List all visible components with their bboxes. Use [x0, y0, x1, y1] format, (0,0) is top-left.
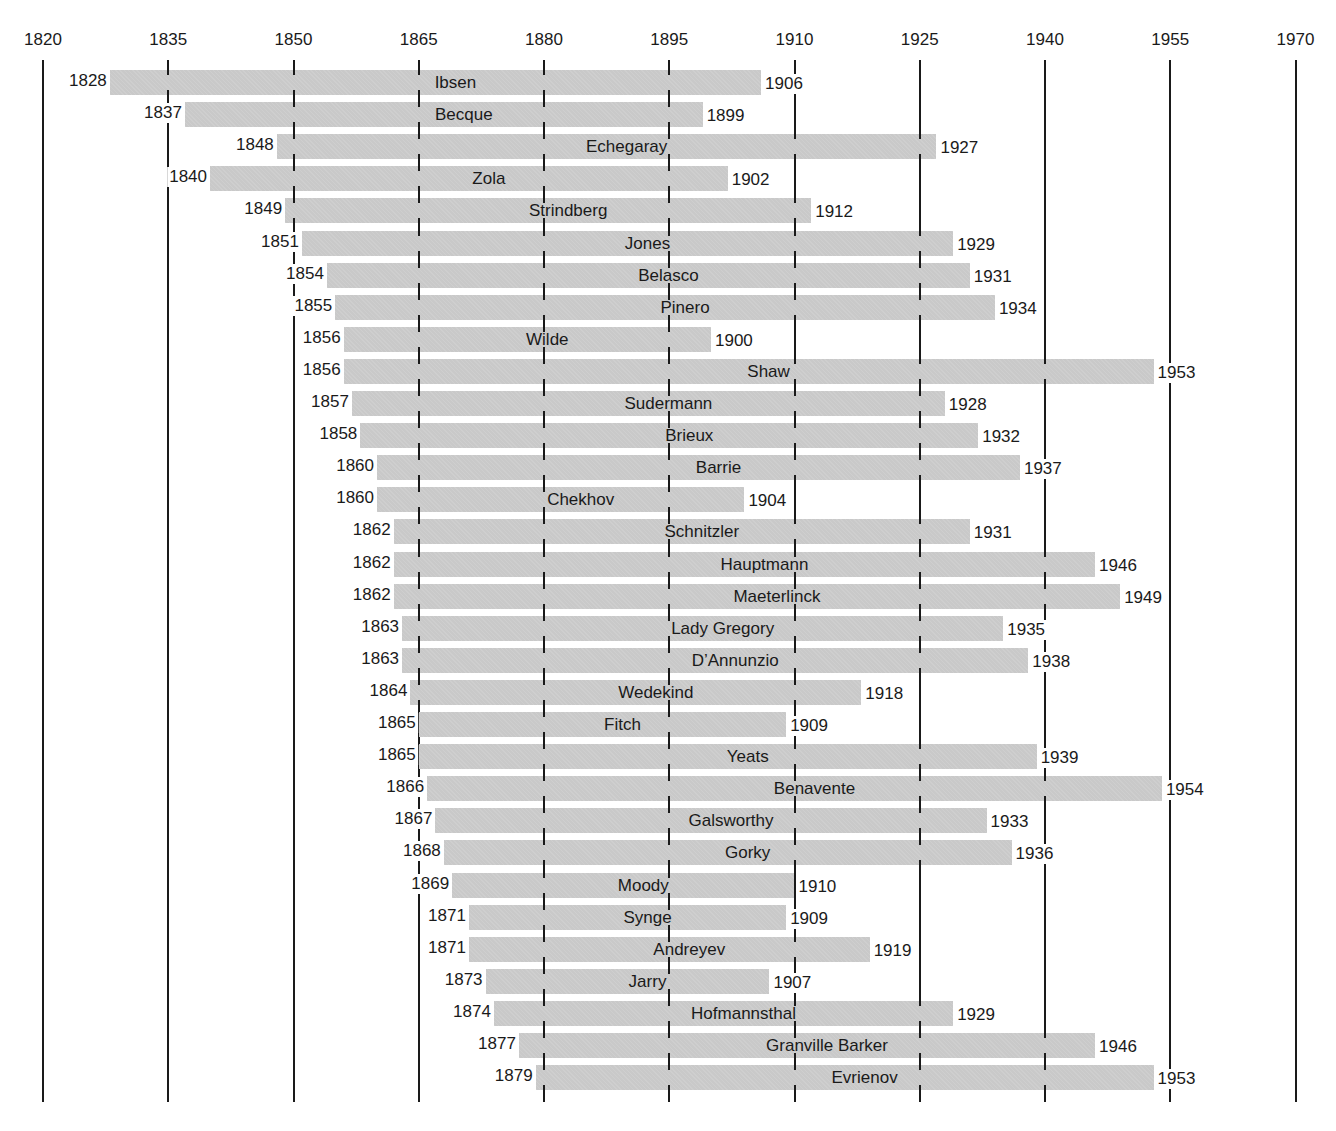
- bar-name: Jarry: [629, 972, 667, 992]
- grid-tick: [668, 712, 670, 717]
- bar-name: Echegaray: [586, 137, 667, 157]
- grid-tick: [418, 186, 420, 191]
- start-year: 1856: [301, 328, 343, 348]
- end-year: 1946: [1097, 1037, 1139, 1057]
- grid-tick: [543, 295, 545, 300]
- grid-tick: [794, 636, 796, 641]
- axis-tick-label: 1835: [149, 30, 187, 50]
- start-year: 1866: [384, 777, 426, 797]
- grid-tick: [543, 1053, 545, 1058]
- grid-tick: [418, 134, 420, 139]
- bar-name: Galsworthy: [688, 811, 773, 831]
- grid-tick: [543, 636, 545, 641]
- start-year: 1865: [376, 745, 418, 765]
- grid-tick: [543, 134, 545, 139]
- start-year: 1874: [451, 1002, 493, 1022]
- start-year: 1868: [401, 841, 443, 861]
- grid-tick: [1044, 1065, 1046, 1070]
- start-year: 1854: [284, 264, 326, 284]
- bar-row: Galsworthy18671933: [0, 808, 1336, 834]
- grid-tick: [668, 828, 670, 833]
- grid-tick: [543, 668, 545, 673]
- grid-tick: [418, 327, 420, 332]
- bar-name: Pinero: [660, 298, 709, 318]
- grid-tick: [418, 166, 420, 171]
- bar-row: D’Annunzio18631938: [0, 648, 1336, 674]
- grid-tick: [418, 487, 420, 492]
- bar-row: Jones18511929: [0, 231, 1336, 257]
- grid-tick: [794, 680, 796, 685]
- grid-tick: [919, 231, 921, 236]
- grid-tick: [543, 893, 545, 898]
- grid-tick: [543, 860, 545, 865]
- start-year: 1863: [359, 649, 401, 669]
- end-year: 1909: [788, 716, 830, 736]
- bar-name: Belasco: [638, 266, 698, 286]
- grid-tick: [293, 166, 295, 171]
- grid-tick: [543, 391, 545, 396]
- end-year: 1953: [1156, 1069, 1198, 1089]
- grid-tick: [418, 552, 420, 557]
- start-year: 1840: [167, 167, 209, 187]
- start-year: 1858: [317, 424, 359, 444]
- grid-tick: [668, 969, 670, 974]
- end-year: 1931: [972, 267, 1014, 287]
- end-year: 1899: [705, 106, 747, 126]
- start-year: 1851: [259, 232, 301, 252]
- grid-tick: [919, 860, 921, 865]
- bar-name: Schnitzler: [664, 522, 739, 542]
- grid-tick: [543, 263, 545, 268]
- grid-tick: [794, 134, 796, 139]
- grid-tick: [919, 359, 921, 364]
- grid-tick: [543, 969, 545, 974]
- grid-tick: [668, 347, 670, 352]
- grid-tick: [543, 604, 545, 609]
- grid-tick: [668, 744, 670, 749]
- grid-tick: [794, 263, 796, 268]
- grid-tick: [668, 796, 670, 801]
- bar-name: Hauptmann: [720, 555, 808, 575]
- grid-tick: [794, 957, 796, 962]
- bar-name: Hofmannsthal: [691, 1004, 796, 1024]
- start-year: 1855: [292, 296, 334, 316]
- bar-row: Evrienov18791953: [0, 1065, 1336, 1091]
- grid-tick: [543, 487, 545, 492]
- lifespan-bar: [210, 166, 728, 191]
- bar-row: Gorky18681936: [0, 840, 1336, 866]
- bar-name: Gorky: [725, 843, 770, 863]
- grid-tick: [919, 584, 921, 589]
- grid-tick: [293, 134, 295, 139]
- bar-row: Chekhov18601904: [0, 487, 1336, 513]
- bar-name: Wilde: [526, 330, 569, 350]
- grid-tick: [167, 90, 169, 95]
- start-year: 1863: [359, 617, 401, 637]
- grid-tick: [1044, 1085, 1046, 1090]
- grid-tick: [543, 519, 545, 524]
- grid-tick: [668, 572, 670, 577]
- timeline-chart: 1820183518501865188018951910192519401955…: [0, 0, 1336, 1131]
- bar-row: Shaw18561953: [0, 359, 1336, 385]
- end-year: 1954: [1164, 780, 1206, 800]
- bar-row: Granville Barker18771946: [0, 1033, 1336, 1059]
- end-year: 1935: [1005, 620, 1047, 640]
- end-year: 1949: [1122, 588, 1164, 608]
- grid-tick: [794, 808, 796, 813]
- bar-name: Maeterlinck: [733, 587, 820, 607]
- grid-tick: [543, 873, 545, 878]
- start-year: 1837: [142, 103, 184, 123]
- bar-name: Jones: [625, 234, 670, 254]
- grid-tick: [418, 455, 420, 460]
- grid-tick: [543, 828, 545, 833]
- grid-tick: [668, 327, 670, 332]
- grid-tick: [543, 616, 545, 621]
- grid-tick: [418, 636, 420, 641]
- grid-tick: [794, 937, 796, 942]
- bar-row: Jarry18731907: [0, 969, 1336, 995]
- grid-tick: [794, 616, 796, 621]
- grid-tick: [794, 251, 796, 256]
- grid-tick: [293, 102, 295, 107]
- grid-tick: [919, 315, 921, 320]
- grid-tick: [293, 122, 295, 127]
- start-year: 1873: [443, 970, 485, 990]
- grid-tick: [668, 507, 670, 512]
